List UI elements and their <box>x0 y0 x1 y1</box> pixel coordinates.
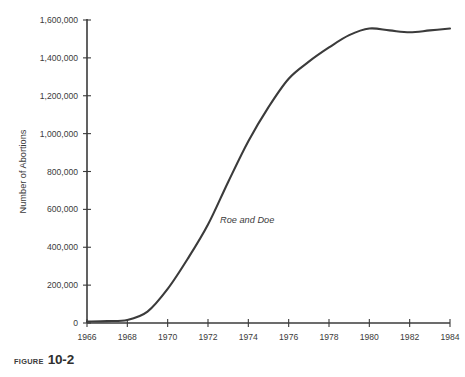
chart-annotations: Roe and Doe <box>220 215 274 225</box>
svg-text:1,000,000: 1,000,000 <box>40 129 78 139</box>
figure-caption: Figure 10-2 <box>14 352 74 367</box>
chart-plot-area: 0200,000400,000600,000800,0001,000,0001,… <box>0 0 465 348</box>
svg-text:1976: 1976 <box>279 332 298 342</box>
figure-caption-number: 10-2 <box>48 352 74 367</box>
figure-container: 0200,000400,000600,000800,0001,000,0001,… <box>0 0 465 377</box>
svg-text:200,000: 200,000 <box>47 280 78 290</box>
svg-text:1,200,000: 1,200,000 <box>40 91 78 101</box>
line-chart-svg: 0200,000400,000600,000800,0001,000,0001,… <box>0 0 465 348</box>
y-axis-title: Number of Abortions <box>18 129 28 213</box>
abortions-trend-line <box>87 28 450 321</box>
svg-text:1970: 1970 <box>158 332 177 342</box>
svg-text:Roe and Doe: Roe and Doe <box>220 215 274 225</box>
figure-caption-word: Figure <box>14 357 44 366</box>
svg-text:1968: 1968 <box>118 332 137 342</box>
svg-text:600,000: 600,000 <box>47 204 78 214</box>
svg-text:0: 0 <box>73 318 78 328</box>
svg-text:400,000: 400,000 <box>47 242 78 252</box>
svg-text:1974: 1974 <box>239 332 258 342</box>
svg-text:1978: 1978 <box>319 332 338 342</box>
svg-text:1,400,000: 1,400,000 <box>40 53 78 63</box>
svg-text:800,000: 800,000 <box>47 167 78 177</box>
svg-text:1980: 1980 <box>360 332 379 342</box>
svg-text:1966: 1966 <box>77 332 96 342</box>
svg-text:1984: 1984 <box>440 332 459 342</box>
svg-text:1,600,000: 1,600,000 <box>40 15 78 25</box>
y-axis-ticks: 0200,000400,000600,000800,0001,000,0001,… <box>40 15 91 328</box>
svg-text:1972: 1972 <box>198 332 217 342</box>
svg-text:1982: 1982 <box>400 332 419 342</box>
